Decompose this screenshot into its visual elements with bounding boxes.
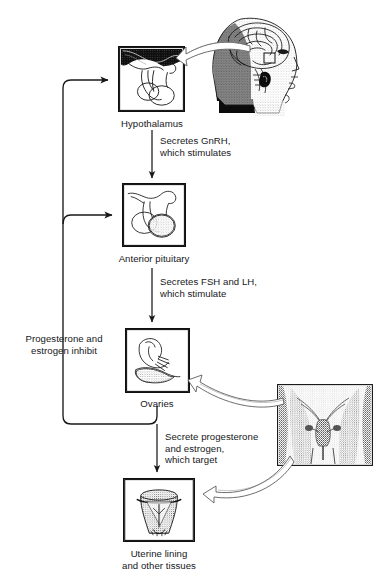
- pointer-pelvis-to-ovaries: [188, 375, 284, 407]
- anterior-pituitary-panel: [122, 183, 186, 247]
- uterine-lining-panel: [123, 478, 195, 542]
- arrow-label-progesterone: Secrete progesterone and estrogen, which…: [165, 431, 325, 466]
- arrow-label-fsh-lh: Secretes FSH and LH, which stimulate: [160, 276, 320, 299]
- arrow-feedback-to-pituitary: [63, 215, 112, 224]
- hypothalamus-panel: [118, 46, 185, 112]
- arrow-label-gnrh: Secretes GnRH, which stimulates: [160, 135, 310, 158]
- arrow-label-feedback: Progesterone and estrogen inhibit: [8, 333, 120, 356]
- hormonal-feedback-diagram: Hypothalamus: [0, 0, 376, 588]
- head-brain-photo: [195, 13, 307, 117]
- hypothalamus-label: Hypothalamus: [108, 118, 196, 130]
- ovaries-label: Ovaries: [112, 398, 202, 410]
- ovaries-panel: [125, 328, 190, 393]
- uterine-lining-label: Uterine lining and other tissues: [104, 548, 214, 571]
- anterior-pituitary-label: Anterior pituitary: [104, 253, 204, 265]
